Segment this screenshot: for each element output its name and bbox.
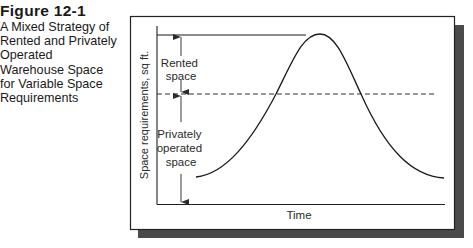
rented-space-label: Rented space <box>161 57 201 82</box>
frame-shadow-right <box>455 25 464 238</box>
y-axis-label: Space requirements, sq ft. <box>138 51 150 179</box>
figure-frame <box>131 17 455 230</box>
x-axis-label: Time <box>286 209 311 221</box>
frame-shadow-bottom <box>138 230 464 238</box>
diagram-canvas: Rented space Privately operated space Sp… <box>0 0 473 248</box>
